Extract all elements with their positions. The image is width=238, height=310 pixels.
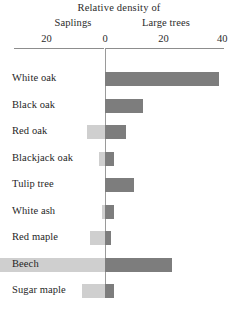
group-label-large-trees: Large trees xyxy=(128,17,204,28)
chart-row: Sugar maple xyxy=(0,280,238,304)
x-tick-label-4: 40 xyxy=(210,33,234,44)
bar-saplings-2 xyxy=(87,125,105,139)
chart-row: Black oak xyxy=(0,95,238,119)
bar-large-trees-0 xyxy=(105,72,219,86)
category-label-0: White oak xyxy=(12,72,56,83)
bar-large-trees-4 xyxy=(105,178,134,192)
bar-large-trees-3 xyxy=(105,152,114,166)
axis-rule-right xyxy=(106,48,224,49)
x-tick-label-3: 20 xyxy=(152,33,176,44)
category-label-3: Blackjack oak xyxy=(12,152,73,163)
bar-large-trees-8 xyxy=(105,284,114,298)
chart-row: Red oak xyxy=(0,121,238,145)
category-label-4: Tulip tree xyxy=(12,178,54,189)
chart-row: Beech xyxy=(0,254,238,278)
chart-container: Relative density of Saplings Large trees… xyxy=(0,0,238,310)
category-label-6: Red maple xyxy=(12,231,58,242)
chart-row: Tulip tree xyxy=(0,174,238,198)
chart-row: Red maple xyxy=(0,227,238,251)
bar-large-trees-7 xyxy=(105,258,172,272)
axis-rule-left xyxy=(14,48,104,49)
chart-row: Blackjack oak xyxy=(0,148,238,172)
category-label-8: Sugar maple xyxy=(12,284,66,295)
category-label-7: Beech xyxy=(12,258,39,269)
category-label-1: Black oak xyxy=(12,99,55,110)
bar-saplings-8 xyxy=(82,284,105,298)
x-axis-tick-labels: 402002040 xyxy=(0,33,238,47)
chart-title: Relative density of xyxy=(0,2,238,13)
chart-row: White ash xyxy=(0,201,238,225)
x-tick-label-2: 0 xyxy=(93,33,117,44)
bar-large-trees-1 xyxy=(105,99,143,113)
bar-large-trees-6 xyxy=(105,231,111,245)
bar-large-trees-5 xyxy=(105,205,114,219)
chart-row: White oak xyxy=(0,68,238,92)
bar-large-trees-2 xyxy=(105,125,126,139)
plot-area: White oakBlack oakRed oakBlackjack oakTu… xyxy=(0,52,238,300)
group-label-saplings: Saplings xyxy=(38,17,108,28)
bar-saplings-6 xyxy=(90,231,105,245)
category-label-5: White ash xyxy=(12,205,55,216)
category-label-2: Red oak xyxy=(12,125,47,136)
x-tick-label-1: 20 xyxy=(34,33,58,44)
